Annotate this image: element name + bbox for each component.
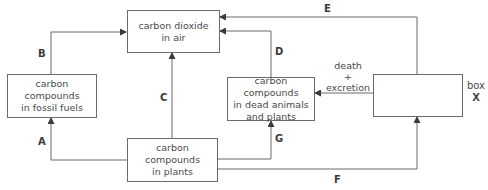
note-line: death [324, 60, 372, 71]
label-d: D [275, 46, 283, 57]
box-dead-animals-plants: carbon compounds in dead animals and pla… [227, 77, 315, 121]
box-text: in dead animals [228, 99, 314, 111]
box-text: carbon compounds [8, 78, 96, 102]
label-a: A [38, 136, 46, 147]
arrow-b [51, 32, 126, 74]
arrow-a [51, 118, 127, 160]
box-x-label: box X [466, 80, 486, 104]
box-carbon-dioxide-in-air: carbon dioxide in air [127, 10, 220, 53]
note-line: excretion [324, 82, 372, 93]
arrow-e [220, 17, 417, 74]
box-text: and plants [228, 111, 314, 123]
box-x-label-line: box [466, 80, 486, 92]
note-line: + [324, 71, 372, 82]
box-text: in plants [128, 166, 217, 178]
box-x [373, 74, 463, 117]
arrow-f [217, 117, 417, 169]
box-text: carbon compounds [228, 75, 314, 99]
box-x-label-letter: X [466, 92, 486, 104]
box-text: carbon dioxide [138, 20, 208, 32]
label-e: E [324, 3, 331, 14]
death-excretion-label: death + excretion [324, 60, 372, 93]
label-f: F [334, 174, 341, 185]
arrow-g [217, 121, 271, 159]
label-b: B [38, 48, 46, 59]
box-text: in fossil fuels [8, 102, 96, 114]
box-text: in air [138, 32, 208, 44]
box-text: carbon compounds [128, 142, 217, 166]
box-fossil-fuels: carbon compounds in fossil fuels [7, 74, 97, 118]
arrow-d [220, 31, 271, 77]
label-c: C [160, 92, 167, 103]
label-g: G [275, 133, 283, 144]
box-plants: carbon compounds in plants [127, 138, 218, 182]
